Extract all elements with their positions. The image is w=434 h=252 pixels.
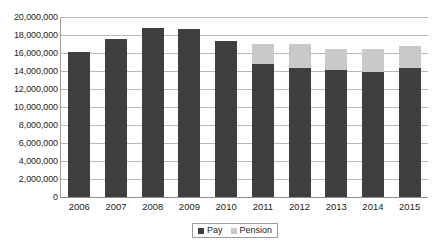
bar-segment-pay	[142, 28, 164, 197]
legend-swatch-icon	[231, 228, 237, 234]
x-tick-label: 2008	[135, 201, 171, 213]
y-tick-label: 6,000,000	[2, 139, 58, 148]
x-tick-label: 2011	[245, 201, 281, 213]
bar-group	[325, 17, 347, 197]
legend-label: Pension	[240, 226, 273, 235]
y-tick-label: 2,000,000	[2, 175, 58, 184]
bar-segment-pay	[325, 70, 347, 197]
bar-group	[362, 17, 384, 197]
legend-swatch-icon	[198, 228, 204, 234]
y-tick-label: 8,000,000	[2, 121, 58, 130]
bar-group	[215, 17, 237, 197]
y-tick-label: 20,000,000	[2, 13, 58, 22]
bar-group	[142, 17, 164, 197]
bar-segment-pay	[252, 64, 274, 197]
bar-segment-pension	[289, 44, 311, 68]
bar-group	[105, 17, 127, 197]
bars-layer	[61, 17, 428, 197]
bar-segment-pay	[362, 72, 384, 197]
bar-segment-pension	[399, 46, 421, 69]
x-tick-label: 2007	[98, 201, 134, 213]
bar-segment-pay	[399, 68, 421, 197]
y-axis-line	[60, 17, 61, 198]
x-tick-label: 2014	[355, 201, 391, 213]
x-tick-label: 2012	[282, 201, 318, 213]
x-tick-label: 2006	[61, 201, 97, 213]
bar-segment-pay	[178, 29, 200, 197]
plot-area	[61, 17, 428, 197]
bar-segment-pay	[68, 52, 90, 197]
x-tick-label: 2013	[318, 201, 354, 213]
legend-entry: Pay	[198, 226, 223, 235]
bar-group	[178, 17, 200, 197]
bar-group	[252, 17, 274, 197]
y-tick-label: 16,000,000	[2, 49, 58, 58]
bar-segment-pay	[105, 39, 127, 197]
x-tick-label: 2009	[171, 201, 207, 213]
y-tick-label: 10,000,000	[2, 103, 58, 112]
legend-entry: Pension	[231, 226, 273, 235]
bar-chart: 02,000,0004,000,0006,000,0008,000,00010,…	[0, 0, 434, 252]
x-tick-label: 2015	[392, 201, 428, 213]
bar-group	[289, 17, 311, 197]
scan-artifact	[0, 243, 434, 252]
x-axis: 2006200720082009201020112012201320142015	[61, 201, 428, 215]
legend-label: Pay	[207, 226, 223, 235]
x-axis-line	[61, 197, 428, 198]
bar-group	[399, 17, 421, 197]
y-tick-label: 0	[2, 193, 58, 202]
y-tick-label: 4,000,000	[2, 157, 58, 166]
bar-segment-pay	[215, 41, 237, 197]
bar-segment-pay	[289, 68, 311, 197]
bar-group	[68, 17, 90, 197]
bar-segment-pension	[252, 44, 274, 64]
y-tick-label: 12,000,000	[2, 85, 58, 94]
bar-segment-pension	[362, 49, 384, 72]
y-axis: 02,000,0004,000,0006,000,0008,000,00010,…	[0, 0, 58, 252]
y-tick-label: 14,000,000	[2, 67, 58, 76]
x-tick-label: 2010	[208, 201, 244, 213]
chart-legend: PayPension	[192, 223, 278, 238]
bar-segment-pension	[325, 49, 347, 70]
y-tick-label: 18,000,000	[2, 31, 58, 40]
